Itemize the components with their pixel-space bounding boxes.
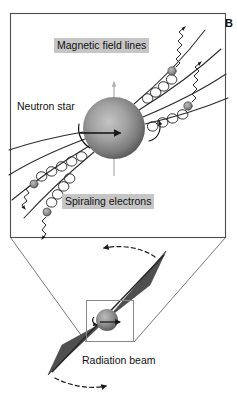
radiation-waves-lower-left [22, 186, 46, 239]
electron-particle-ll-a [30, 180, 38, 188]
label-magnetic-field-lines: Magnetic field lines [54, 40, 149, 51]
label-spiraling-electrons: Spiraling electrons [62, 196, 154, 207]
radiation-wave-ll-b [42, 217, 46, 239]
radiation-wave-ur-a [176, 27, 185, 67]
field-line-ll-4 [9, 132, 83, 150]
electron-particle-ll-b [43, 208, 51, 216]
electron-particle-ur-a [168, 67, 176, 75]
label-magnetic-field-lines-text: Magnetic field lines [54, 38, 149, 53]
label-radiation-beam: Radiation beam [82, 355, 156, 366]
sweep-arrow-lower [55, 378, 106, 387]
neutron-star-sphere [83, 97, 145, 159]
small-neutron-star-sphere [96, 309, 118, 331]
label-spiraling-electrons-text: Spiraling electrons [62, 194, 154, 209]
field-line-ur-2 [139, 49, 221, 110]
spiraling-electrons-upper-right [142, 67, 192, 131]
electron-particle-ur-b [184, 102, 192, 110]
callout-lines [11, 238, 226, 343]
pulsar-figure: B Magnetic field lines Neutron star Spir… [0, 0, 237, 395]
panel-letter-b: B [225, 18, 233, 29]
radiation-wave-ll-a [22, 186, 30, 209]
label-neutron-star: Neutron star [17, 101, 75, 112]
sweep-arrow-upper [104, 247, 155, 257]
